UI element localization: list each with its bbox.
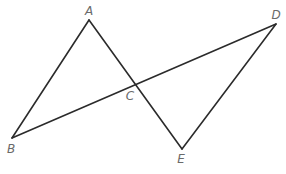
segment-bd	[12, 24, 276, 138]
label-point-d: D	[271, 8, 280, 22]
label-point-a: A	[84, 4, 93, 18]
label-point-b: B	[7, 142, 15, 156]
label-point-e: E	[177, 152, 185, 166]
label-point-c: C	[126, 89, 135, 103]
geometry-diagram: A B C D E	[0, 0, 286, 174]
segment-ab	[12, 20, 89, 138]
segment-de	[182, 24, 276, 149]
